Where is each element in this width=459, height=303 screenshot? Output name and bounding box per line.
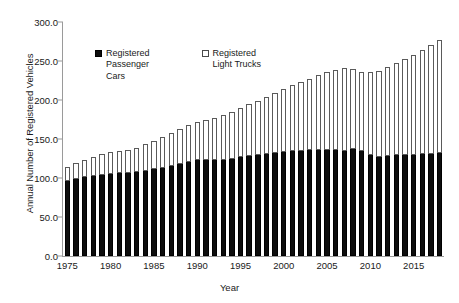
bar-segment-light-trucks[interactable] (186, 125, 191, 162)
bar-segment-passenger-cars[interactable] (437, 153, 442, 256)
bar-group[interactable] (324, 72, 329, 256)
bar-group[interactable] (151, 141, 156, 256)
bar-segment-light-trucks[interactable] (350, 69, 355, 149)
bar-group[interactable] (290, 85, 295, 256)
bar-segment-light-trucks[interactable] (324, 72, 329, 149)
bar-segment-passenger-cars[interactable] (420, 154, 425, 256)
bar-segment-light-trucks[interactable] (411, 55, 416, 155)
bar-segment-light-trucks[interactable] (169, 133, 174, 166)
bar-group[interactable] (402, 59, 407, 256)
bar-group[interactable] (134, 148, 139, 256)
bar-segment-passenger-cars[interactable] (368, 155, 373, 256)
bar-segment-light-trucks[interactable] (99, 154, 104, 174)
bar-segment-passenger-cars[interactable] (221, 160, 226, 256)
bar-segment-light-trucks[interactable] (333, 70, 338, 150)
bar-segment-light-trucks[interactable] (91, 157, 96, 176)
bar-group[interactable] (298, 82, 303, 256)
bar-segment-passenger-cars[interactable] (255, 155, 260, 256)
bar-segment-passenger-cars[interactable] (281, 152, 286, 256)
bar-segment-passenger-cars[interactable] (212, 160, 217, 256)
bar-segment-passenger-cars[interactable] (65, 181, 70, 256)
bar-segment-passenger-cars[interactable] (169, 166, 174, 256)
bar-segment-light-trucks[interactable] (246, 104, 251, 155)
bar-group[interactable] (212, 118, 217, 256)
bar-group[interactable] (229, 112, 234, 256)
bar-group[interactable] (420, 50, 425, 256)
bar-segment-passenger-cars[interactable] (376, 157, 381, 256)
bar-segment-passenger-cars[interactable] (73, 179, 78, 256)
bar-segment-passenger-cars[interactable] (402, 155, 407, 256)
bar-segment-passenger-cars[interactable] (134, 172, 139, 256)
bar-group[interactable] (272, 93, 277, 256)
bar-segment-passenger-cars[interactable] (108, 174, 113, 256)
bar-group[interactable] (307, 79, 312, 256)
bar-group[interactable] (428, 45, 433, 256)
bar-segment-light-trucks[interactable] (255, 101, 260, 155)
bar-segment-passenger-cars[interactable] (333, 150, 338, 256)
bar-group[interactable] (125, 150, 130, 256)
bar-segment-passenger-cars[interactable] (385, 156, 390, 256)
bar-group[interactable] (255, 101, 260, 256)
bar-segment-passenger-cars[interactable] (151, 169, 156, 256)
bar-group[interactable] (203, 120, 208, 257)
bar-segment-light-trucks[interactable] (151, 141, 156, 170)
bar-segment-light-trucks[interactable] (125, 150, 130, 173)
bar-segment-light-trucks[interactable] (65, 167, 70, 181)
bar-segment-passenger-cars[interactable] (298, 151, 303, 256)
bar-segment-light-trucks[interactable] (376, 71, 381, 157)
bar-segment-light-trucks[interactable] (368, 72, 373, 155)
bar-segment-light-trucks[interactable] (117, 151, 122, 173)
bar-segment-light-trucks[interactable] (203, 120, 208, 161)
bar-group[interactable] (394, 63, 399, 256)
bar-segment-passenger-cars[interactable] (411, 155, 416, 256)
bar-segment-passenger-cars[interactable] (350, 149, 355, 256)
bar-group[interactable] (359, 72, 364, 256)
bar-segment-light-trucks[interactable] (437, 40, 442, 153)
bar-segment-passenger-cars[interactable] (160, 168, 165, 256)
bar-group[interactable] (195, 122, 200, 256)
bar-segment-passenger-cars[interactable] (246, 156, 251, 256)
bar-segment-light-trucks[interactable] (134, 148, 139, 173)
bar-segment-passenger-cars[interactable] (125, 173, 130, 256)
bar-segment-passenger-cars[interactable] (99, 175, 104, 257)
bar-group[interactable] (437, 40, 442, 256)
bar-segment-light-trucks[interactable] (264, 97, 269, 154)
bar-segment-light-trucks[interactable] (160, 137, 165, 168)
bar-segment-passenger-cars[interactable] (342, 151, 347, 256)
bar-group[interactable] (385, 67, 390, 256)
bar-group[interactable] (82, 160, 87, 256)
bar-segment-light-trucks[interactable] (229, 112, 234, 158)
bar-group[interactable] (91, 157, 96, 256)
bar-segment-passenger-cars[interactable] (316, 150, 321, 256)
bar-segment-light-trucks[interactable] (212, 118, 217, 161)
bar-segment-passenger-cars[interactable] (359, 151, 364, 256)
bar-group[interactable] (246, 104, 251, 256)
bar-segment-passenger-cars[interactable] (290, 151, 295, 256)
bar-segment-passenger-cars[interactable] (143, 171, 148, 256)
bar-group[interactable] (264, 97, 269, 256)
bar-segment-light-trucks[interactable] (73, 163, 78, 179)
bar-segment-light-trucks[interactable] (316, 75, 321, 149)
bar-segment-passenger-cars[interactable] (307, 150, 312, 256)
bar-group[interactable] (73, 163, 78, 256)
bar-segment-light-trucks[interactable] (428, 45, 433, 153)
bar-segment-light-trucks[interactable] (394, 63, 399, 156)
bar-segment-light-trucks[interactable] (221, 115, 226, 159)
bar-segment-passenger-cars[interactable] (264, 154, 269, 256)
bar-segment-passenger-cars[interactable] (186, 162, 191, 256)
bar-group[interactable] (411, 55, 416, 256)
bar-group[interactable] (117, 151, 122, 256)
bar-segment-light-trucks[interactable] (298, 82, 303, 151)
bar-segment-passenger-cars[interactable] (82, 177, 87, 256)
bar-segment-passenger-cars[interactable] (203, 160, 208, 256)
bar-group[interactable] (368, 72, 373, 256)
bar-segment-light-trucks[interactable] (359, 72, 364, 151)
bar-group[interactable] (238, 108, 243, 256)
bar-group[interactable] (99, 154, 104, 256)
bar-segment-light-trucks[interactable] (82, 160, 87, 177)
bar-segment-passenger-cars[interactable] (91, 176, 96, 256)
bar-segment-passenger-cars[interactable] (238, 157, 243, 256)
bar-segment-light-trucks[interactable] (195, 122, 200, 161)
bar-segment-passenger-cars[interactable] (394, 155, 399, 256)
bar-segment-light-trucks[interactable] (342, 68, 347, 151)
